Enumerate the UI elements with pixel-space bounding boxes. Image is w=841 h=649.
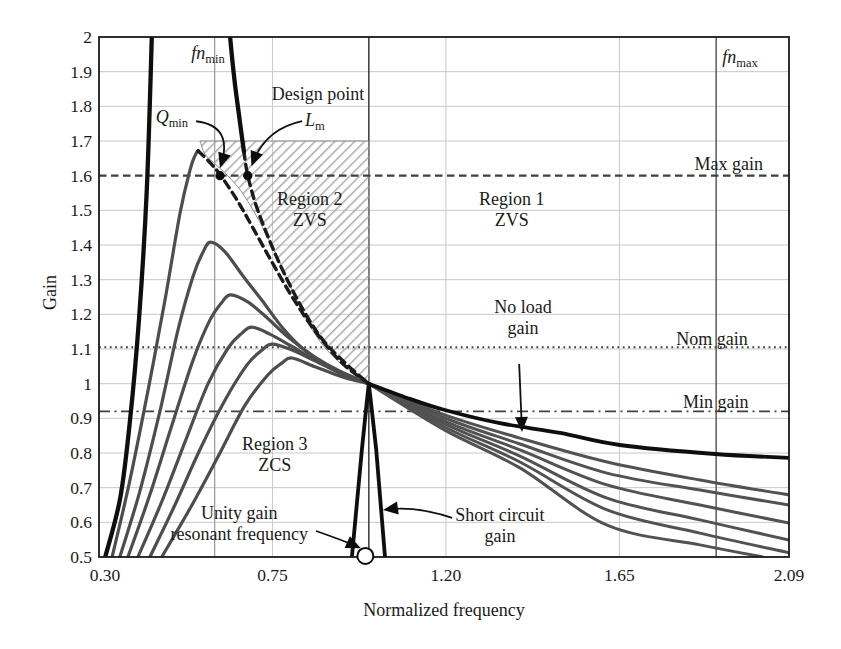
y-tick-0.5: 0.5 <box>70 547 92 567</box>
design-point-label: Design point <box>272 84 365 104</box>
y-tick-0.8: 0.8 <box>70 443 92 463</box>
design-point-marker <box>243 171 252 180</box>
y-tick-1.9: 1.9 <box>70 62 92 82</box>
gain-frequency-chart: fnminfnmaxDesign pointLmQminMax gainRegi… <box>0 0 841 649</box>
y-tick-0.7: 0.7 <box>70 478 92 498</box>
x-axis-title: Normalized frequency <box>294 600 594 621</box>
x-tick-0.30: 0.30 <box>90 565 121 585</box>
x-tick-2.09: 2.09 <box>774 565 805 585</box>
y-tick-1.7: 1.7 <box>70 131 92 151</box>
y-tick-1.8: 1.8 <box>70 96 92 116</box>
figure-background <box>0 0 841 649</box>
unity-gain-resonant-point <box>357 548 373 564</box>
y-tick-0.6: 0.6 <box>70 512 92 532</box>
y-tick-1: 1 <box>83 374 92 394</box>
x-tick-1.20: 1.20 <box>431 565 462 585</box>
x-tick-1.65: 1.65 <box>604 565 635 585</box>
y-tick-1.3: 1.3 <box>70 270 92 290</box>
y-tick-0.9: 0.9 <box>70 408 92 428</box>
y-axis-title: Gain <box>40 263 61 323</box>
y-tick-1.4: 1.4 <box>70 235 92 255</box>
y-tick-1.5: 1.5 <box>70 200 92 220</box>
y-tick-1.2: 1.2 <box>70 304 92 324</box>
y-tick-2: 2 <box>83 27 92 47</box>
x-tick-0.75: 0.75 <box>257 565 288 585</box>
q-min-point <box>215 171 224 180</box>
nom-gain-label: Nom gain <box>676 329 748 349</box>
llc-gain-frequency-figure: fnminfnmaxDesign pointLmQminMax gainRegi… <box>0 0 841 649</box>
y-tick-1.1: 1.1 <box>70 339 92 359</box>
y-tick-1.6: 1.6 <box>70 166 92 186</box>
min-gain-label: Min gain <box>683 392 749 412</box>
max-gain-label: Max gain <box>695 154 763 174</box>
